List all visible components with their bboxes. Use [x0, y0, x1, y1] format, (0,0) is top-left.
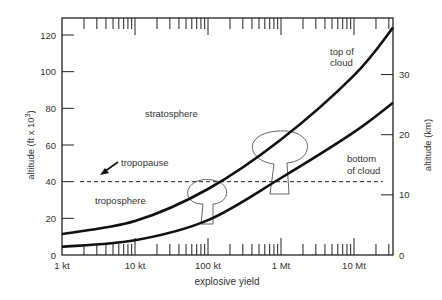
- y-tick-label: 60: [45, 140, 56, 151]
- x-axis-label: explosive yield: [194, 276, 259, 287]
- y-axis-label: altitude (ft x 103): [24, 110, 36, 179]
- tropopause-label: tropopause: [121, 157, 169, 168]
- cloud-altitude-chart: 1 kt10 kt100 kt1 Mt10 Mt 020406080100120…: [0, 0, 442, 300]
- top-of-cloud-label-line1: top of: [330, 46, 354, 57]
- y-tick-label: 100: [40, 66, 56, 77]
- mushroom-cloud-small-icon: [188, 179, 227, 224]
- x-tick-label: 1 Mt: [272, 260, 291, 271]
- y-tick-label: 80: [45, 103, 56, 114]
- x-tick-label: 1 kt: [54, 260, 70, 271]
- y2-axis-label: altitude (km): [422, 119, 433, 171]
- tropopause-arrow-icon: [100, 162, 118, 175]
- y2-axis-ticks: 0102030: [381, 69, 410, 260]
- top-of-cloud-label-line2: cloud: [330, 57, 353, 68]
- y-tick-label: 120: [40, 30, 56, 41]
- y-tick-label: 0: [51, 250, 56, 261]
- y-tick-label: 40: [45, 176, 56, 187]
- x-tick-label: 100 kt: [195, 260, 221, 271]
- x-tick-label: 10 kt: [125, 260, 146, 271]
- y2-tick-label: 20: [399, 129, 410, 140]
- bottom-of-cloud-label-line1: bottom: [347, 153, 376, 164]
- stratosphere-label: stratosphere: [145, 108, 198, 119]
- y-axis-ticks: 020406080100120: [40, 30, 74, 261]
- y2-tick-label: 30: [399, 69, 410, 80]
- y-tick-label: 20: [45, 213, 56, 224]
- bottom-of-cloud-curve: [62, 103, 393, 247]
- bottom-of-cloud-label-line2: of cloud: [347, 165, 380, 176]
- y2-tick-label: 10: [399, 189, 410, 200]
- x-tick-label: 10 Mt: [342, 260, 366, 271]
- troposphere-label: troposphere: [95, 195, 146, 206]
- y2-tick-label: 0: [399, 250, 404, 261]
